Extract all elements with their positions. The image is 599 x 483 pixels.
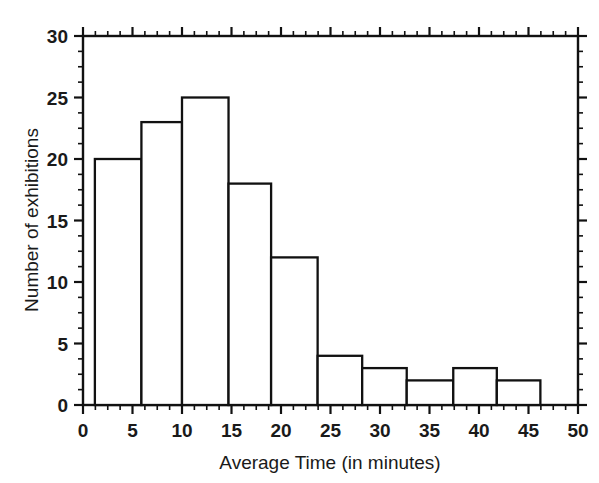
y-tick-label: 25 bbox=[47, 88, 69, 109]
x-tick-label: 15 bbox=[221, 420, 243, 441]
y-tick-label: 15 bbox=[47, 211, 69, 232]
histogram-bar bbox=[182, 98, 229, 406]
chart-background bbox=[0, 0, 599, 483]
x-tick-label: 45 bbox=[518, 420, 540, 441]
histogram-bar bbox=[453, 368, 497, 405]
histogram-bar bbox=[362, 368, 407, 405]
histogram-bar bbox=[95, 159, 142, 405]
x-tick-label: 5 bbox=[127, 420, 138, 441]
y-tick-label: 0 bbox=[57, 395, 68, 416]
histogram-bar bbox=[318, 356, 363, 405]
x-tick-label: 20 bbox=[270, 420, 291, 441]
histogram-bar bbox=[497, 380, 541, 405]
y-tick-label: 30 bbox=[47, 26, 68, 47]
y-tick-label: 20 bbox=[47, 149, 68, 170]
histogram-figure: 05101520253035404550 051015202530 Averag… bbox=[0, 0, 599, 483]
y-tick-label: 5 bbox=[57, 334, 68, 355]
x-tick-label: 40 bbox=[468, 420, 489, 441]
x-axis-title: Average Time (in minutes) bbox=[219, 452, 440, 473]
chart-canvas: 05101520253035404550 051015202530 Averag… bbox=[0, 0, 599, 483]
x-tick-label: 35 bbox=[419, 420, 441, 441]
x-tick-label: 30 bbox=[369, 420, 390, 441]
y-tick-label: 10 bbox=[47, 272, 68, 293]
x-tick-label: 25 bbox=[320, 420, 342, 441]
histogram-bar bbox=[229, 184, 272, 405]
x-tick-label: 0 bbox=[78, 420, 89, 441]
histogram-bar bbox=[271, 257, 318, 405]
x-tick-label: 50 bbox=[567, 420, 588, 441]
y-axis-title: Number of exhibitions bbox=[21, 128, 42, 312]
histogram-bar bbox=[141, 122, 182, 405]
x-tick-label: 10 bbox=[171, 420, 192, 441]
histogram-bar bbox=[407, 380, 454, 405]
